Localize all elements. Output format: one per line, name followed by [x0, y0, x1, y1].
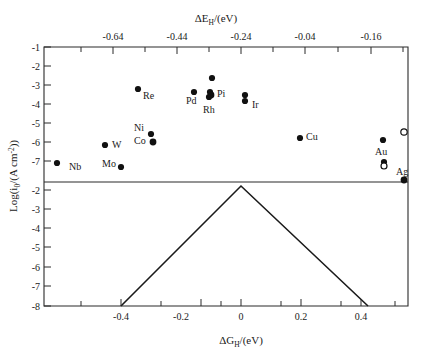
y-tick-label-lower-6: -7: [32, 281, 40, 292]
y-tick-label-lower-5: -6: [32, 262, 40, 273]
y-tick-label-lower-2: -3: [32, 204, 40, 215]
data-point-Au: [380, 137, 386, 143]
bottom-axis-ticks: [81, 299, 395, 306]
y-axis-title: Log(i0/(A cm-2)): [7, 140, 22, 212]
data-point-Ir-1: [242, 92, 248, 98]
y-tick-label-lower-4: -5: [32, 242, 40, 253]
data-point-Mo: [118, 164, 124, 170]
top-axis-ticks: [81, 47, 403, 54]
y-tick-label-lower-1: -2: [32, 185, 40, 196]
plot-frame: [44, 47, 408, 306]
y-tick-label-lower-3: -4: [32, 223, 40, 234]
scatter-points: Nb Mo W Re Ni Co Pd Rh Pi: [54, 75, 408, 184]
bottom-tick-label-2: 0: [239, 311, 244, 322]
point-label-Ir: Ir: [252, 99, 259, 110]
bottom-tick-label-4: 0.4: [355, 311, 368, 322]
top-tick-label-3: -0.04: [295, 31, 316, 42]
data-point-Au-open: [381, 163, 387, 169]
data-point-Ag-filled: [401, 177, 408, 184]
y-tick-label-upper-5: -6: [32, 137, 40, 148]
point-label-W: W: [112, 139, 122, 150]
y-tick-label-upper-2: -3: [32, 80, 40, 91]
bottom-tick-label-0: -0.4: [113, 311, 129, 322]
bottom-axis-tick-labels: -0.4 -0.2 0 0.2 0.4: [113, 311, 367, 322]
y-tick-label-upper-1: -2: [32, 61, 40, 72]
bottom-tick-label-3: 0.2: [295, 311, 308, 322]
data-point-Co: [150, 139, 157, 146]
data-point-Cu: [297, 135, 303, 141]
y-axis-ticks-upper: [44, 47, 51, 161]
y-axis-tick-labels-upper: -1 -2 -3 -4 -5 -6 -7: [32, 42, 40, 167]
point-label-Co: Co: [134, 135, 146, 146]
chart-figure: ΔEH/(eV) -0.64 -0.44 -0.24 -0.04 -0.16: [0, 0, 432, 354]
data-point-Re: [135, 86, 141, 92]
data-point-cluster-3: [208, 92, 215, 99]
chart-svg: ΔEH/(eV) -0.64 -0.44 -0.24 -0.04 -0.16: [0, 0, 432, 354]
point-label-Mo: Mo: [102, 158, 116, 169]
data-point-W: [102, 142, 108, 148]
point-label-Ag: Ag: [396, 166, 408, 177]
y-tick-label-lower-7: -8: [32, 301, 40, 312]
data-point-Ir-2: [242, 98, 248, 104]
bottom-axis-title: ΔGH/(eV): [219, 334, 263, 349]
data-point-cluster-4: [209, 75, 215, 81]
y-tick-label-upper-0: -1: [32, 42, 40, 53]
point-label-Ni: Ni: [134, 122, 144, 133]
top-tick-label-0: -0.64: [103, 31, 124, 42]
point-label-Au: Au: [375, 146, 387, 157]
top-tick-label-4: -0.16: [361, 31, 382, 42]
point-label-Pt: Pi: [217, 88, 226, 99]
data-point-Nb: [54, 160, 60, 166]
top-tick-label-1: -0.44: [167, 31, 188, 42]
data-point-Ni: [148, 131, 154, 137]
top-tick-label-2: -0.24: [231, 31, 252, 42]
point-label-Cu: Cu: [306, 131, 318, 142]
top-axis-title: ΔEH/(eV): [195, 12, 238, 27]
bottom-tick-label-1: -0.2: [173, 311, 189, 322]
data-point-Ag-open: [401, 129, 407, 135]
y-tick-label-upper-4: -5: [32, 118, 40, 129]
point-label-Pd: Pd: [186, 95, 197, 106]
point-label-Rh: Rh: [203, 104, 215, 115]
point-label-Re: Re: [143, 90, 155, 101]
volcano-curve: [121, 186, 368, 306]
point-label-Nb: Nb: [69, 161, 81, 172]
y-axis-ticks-lower: [44, 190, 51, 306]
y-axis-tick-labels-lower: -2 -3 -4 -5 -6 -7 -8: [32, 185, 40, 312]
top-axis-tick-labels: -0.64 -0.44 -0.24 -0.04 -0.16: [103, 31, 382, 42]
y-tick-label-upper-3: -4: [32, 99, 40, 110]
y-tick-label-upper-6: -7: [32, 156, 40, 167]
